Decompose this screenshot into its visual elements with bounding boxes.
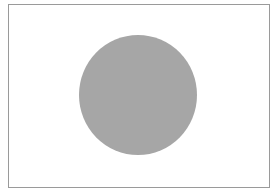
flag-disc (79, 35, 197, 155)
